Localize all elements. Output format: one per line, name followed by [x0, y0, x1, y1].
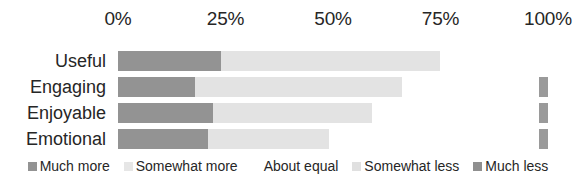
- bar-segment: [208, 129, 328, 149]
- legend-swatch-icon: [352, 162, 361, 171]
- bar-segment: [118, 129, 208, 149]
- legend-label: Somewhat more: [136, 159, 238, 174]
- bar-segment: [539, 77, 548, 97]
- bar-row: [118, 126, 548, 152]
- legend-item[interactable]: Somewhat more: [124, 159, 238, 174]
- x-axis-tick-3: 75%: [422, 8, 459, 30]
- legend-label: Somewhat less: [364, 159, 459, 174]
- x-axis-tick-0: 0%: [104, 8, 131, 30]
- bar-segment: [195, 77, 401, 97]
- legend-swatch-icon: [124, 162, 133, 171]
- legend-label: Much more: [40, 159, 110, 174]
- bar-segment: [329, 129, 540, 149]
- chart-legend: Much moreSomewhat moreAbout equalSomewha…: [0, 156, 576, 177]
- category-label-enjoyable: Enjoyable: [27, 100, 106, 126]
- bar-segment: [221, 51, 440, 71]
- x-axis-tick-2: 50%: [314, 8, 351, 30]
- bar-row: [118, 48, 548, 74]
- bar-segment: [118, 103, 213, 123]
- legend-item[interactable]: Much less: [473, 159, 548, 174]
- bar-segment: [539, 103, 548, 123]
- bar-segment: [539, 129, 548, 149]
- legend-item[interactable]: About equal: [252, 159, 339, 174]
- bar-segment: [118, 77, 195, 97]
- category-label-engaging: Engaging: [30, 74, 106, 100]
- x-axis-tick-1: 25%: [207, 8, 244, 30]
- legend-swatch-icon: [252, 162, 261, 171]
- bar-segment: [213, 103, 372, 123]
- legend-label: Much less: [485, 159, 548, 174]
- bar-segment: [402, 77, 540, 97]
- legend-swatch-icon: [473, 162, 482, 171]
- stacked-bar-chart: 0% 25% 50% 75% 100% Useful Engaging Enjo…: [0, 0, 576, 177]
- legend-label: About equal: [264, 159, 339, 174]
- bar-segment: [372, 103, 540, 123]
- bar-row: [118, 100, 548, 126]
- legend-swatch-icon: [28, 162, 37, 171]
- legend-item[interactable]: Much more: [28, 159, 110, 174]
- x-axis-tick-4: 100%: [524, 8, 572, 30]
- legend-item[interactable]: Somewhat less: [352, 159, 459, 174]
- bar-row: [118, 74, 548, 100]
- bar-segment: [441, 51, 549, 71]
- category-label-useful: Useful: [55, 48, 106, 74]
- y-axis-category-labels: Useful Engaging Enjoyable Emotional: [0, 48, 112, 152]
- category-label-emotional: Emotional: [26, 126, 106, 152]
- plot-area: [118, 48, 548, 152]
- x-axis: 0% 25% 50% 75% 100%: [0, 0, 576, 44]
- bar-segment: [118, 51, 221, 71]
